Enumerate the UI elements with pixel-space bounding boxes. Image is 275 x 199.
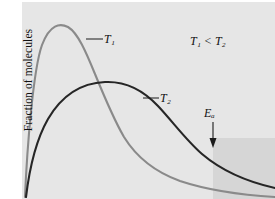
y-axis-label: Fraction of molecules	[22, 0, 34, 160]
distribution-curves	[0, 0, 275, 199]
curve-label-t2: T₂	[160, 91, 171, 106]
activation-energy-label: Eₐ	[204, 106, 215, 121]
activation-energy-arrow-head	[210, 138, 217, 148]
chart-figure: Fraction of molecules T₁ T₂ T₁ < T₂ Eₐ	[0, 0, 275, 199]
curve-label-t1: T₁	[104, 32, 115, 47]
temperature-comparison-annotation: T₁ < T₂	[190, 34, 226, 49]
curve-t1	[25, 25, 275, 197]
curve-t2	[26, 82, 275, 197]
